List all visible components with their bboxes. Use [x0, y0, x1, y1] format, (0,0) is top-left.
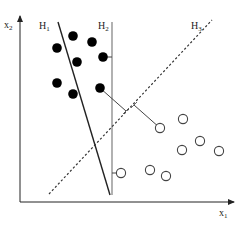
filled-class-points [52, 31, 108, 99]
data-point-filled [68, 31, 78, 41]
svm-hyperplane-diagram: x2 x1 H1 H2 H3 [0, 0, 243, 226]
data-point-open [177, 145, 186, 154]
open-class-points [116, 114, 223, 180]
data-point-open [195, 136, 204, 145]
data-point-filled [52, 43, 62, 53]
data-point-open [145, 165, 154, 174]
data-point-filled [98, 52, 108, 62]
data-point-open [161, 171, 170, 180]
data-point-filled [95, 83, 105, 93]
hyperplane-h3 [49, 20, 212, 194]
y-axis-label: x2 [4, 19, 13, 32]
h3-label: H3 [191, 20, 202, 33]
h2-label: H2 [98, 20, 109, 33]
data-point-open [214, 146, 223, 155]
data-point-open [116, 168, 125, 177]
data-point-filled [52, 78, 62, 88]
x-axis-label: x1 [219, 207, 228, 220]
data-point-open [155, 123, 164, 132]
data-point-filled [87, 37, 97, 47]
data-point-filled [68, 89, 78, 99]
margin-line-h3-open [134, 105, 160, 128]
data-point-open [178, 114, 187, 123]
data-point-filled [72, 57, 82, 67]
margin-line-h3-filled [100, 88, 126, 111]
h1-label: H1 [39, 20, 50, 33]
hyperplane-h1 [58, 22, 110, 195]
